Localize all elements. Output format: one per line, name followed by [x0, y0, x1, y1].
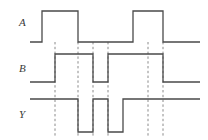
- waveform-b: [30, 54, 200, 82]
- waveform-label-b: B: [19, 62, 26, 74]
- timing-diagram: A B Y: [0, 0, 208, 140]
- waveform-group: [30, 11, 200, 132]
- waveform-label-y: Y: [19, 108, 27, 120]
- waveform-a: [30, 11, 200, 42]
- waveform-label-a: A: [18, 16, 26, 28]
- marker-line-group: [55, 42, 163, 136]
- timing-diagram-canvas: A B Y: [0, 0, 208, 140]
